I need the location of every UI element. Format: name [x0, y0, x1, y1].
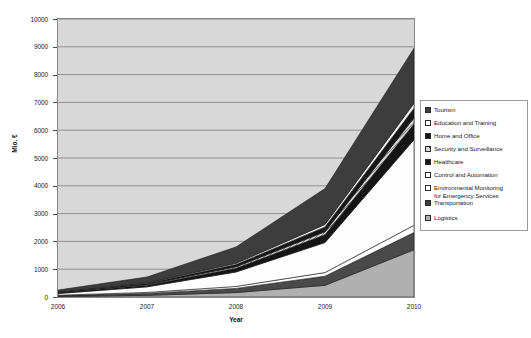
legend-item-label: Healthcare: [434, 158, 463, 166]
y-tick-label: 0: [14, 294, 48, 301]
x-axis-title: Year: [0, 316, 472, 323]
legend-item[interactable]: Home and Office: [425, 132, 480, 140]
x-tick-label: 2008: [216, 303, 256, 311]
legend-item[interactable]: Environmental Monitoring for Emergency S…: [425, 184, 503, 199]
x-tick-label: 2006: [38, 303, 78, 311]
y-tick-label: 8000: [14, 71, 48, 78]
legend-item-label: Logistics: [434, 214, 458, 222]
y-tick-label: 6000: [14, 127, 48, 134]
legend-swatch-icon: [425, 172, 431, 178]
legend-item-label: Environmental Monitoring for Emergency S…: [434, 184, 503, 199]
y-tick-label: 9000: [14, 43, 48, 50]
y-axis-title: Mio. €: [11, 114, 18, 174]
legend-item[interactable]: Healthcare: [425, 158, 463, 166]
plot-area: [57, 18, 415, 298]
legend-swatch-icon: [425, 120, 431, 126]
x-tick-label: 2007: [127, 303, 167, 311]
legend-item[interactable]: Logistics: [425, 214, 458, 222]
legend-item-label: Education and Training: [434, 119, 496, 127]
legend-swatch-icon: [425, 133, 431, 139]
legend: TourismEducation and TrainingHome and Of…: [420, 100, 528, 231]
legend-swatch-icon: [425, 159, 431, 165]
y-tick-label: 10000: [14, 16, 48, 23]
legend-item[interactable]: Education and Training: [425, 119, 496, 127]
legend-swatch-icon: [425, 185, 431, 191]
legend-swatch-icon: [425, 146, 431, 152]
legend-item[interactable]: Security and Surveillance: [425, 145, 503, 153]
series-paths: [58, 48, 414, 297]
y-tick-label: 2000: [14, 238, 48, 245]
x-tick-label: 2010: [394, 303, 434, 311]
legend-item[interactable]: Control and Automation: [425, 171, 498, 179]
legend-item-label: Tourism: [434, 106, 455, 114]
y-tick-label: 4000: [14, 182, 48, 189]
legend-swatch-icon: [425, 215, 431, 221]
legend-item-label: Home and Office: [434, 132, 480, 140]
y-tick-label: 3000: [14, 210, 48, 217]
legend-item[interactable]: Transportation: [425, 199, 473, 207]
legend-item-label: Transportation: [434, 199, 473, 207]
legend-swatch-icon: [425, 200, 431, 206]
y-tick-label: 5000: [14, 155, 48, 162]
y-tick-label: 1000: [14, 266, 48, 273]
area-series-group: [58, 19, 414, 297]
legend-item-label: Control and Automation: [434, 171, 498, 179]
y-tick-label: 7000: [14, 99, 48, 106]
stacked-area-chart: Mio. € 010002000300040005000600070008000…: [0, 0, 531, 338]
legend-swatch-icon: [425, 107, 431, 113]
legend-item-label: Security and Surveillance: [434, 145, 503, 153]
x-tick-label: 2009: [305, 303, 345, 311]
legend-item[interactable]: Tourism: [425, 106, 455, 114]
